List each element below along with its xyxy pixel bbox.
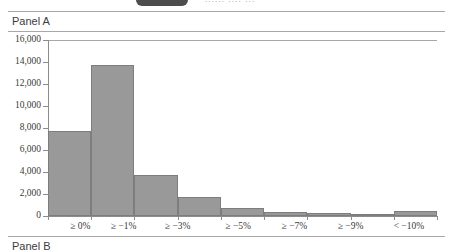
legend-strip: ...... .... ...	[0, 0, 453, 9]
histogram-bar	[394, 211, 437, 216]
histogram-bar	[221, 208, 264, 216]
y-axis-tick	[43, 150, 49, 151]
x-axis-tick	[264, 216, 265, 220]
x-axis-tick	[351, 216, 352, 220]
x-axis-tick-label: ≥ −5%	[225, 221, 251, 231]
x-axis-tick	[437, 216, 438, 220]
x-axis-tick-label: ≥ 0%	[70, 221, 90, 231]
y-axis-tick-label: 4,000	[0, 166, 41, 176]
y-axis-tick-label: 8,000	[0, 122, 41, 132]
panel-b-caption: Panel B	[12, 240, 51, 250]
x-axis-tick-label: ≥ −9%	[338, 221, 364, 231]
x-axis-tick-label: ≥ −3%	[165, 221, 191, 231]
histogram-bar	[134, 175, 177, 216]
divider-above-panel-b	[8, 236, 445, 237]
histogram-bar	[91, 65, 134, 216]
y-axis-tick	[43, 128, 49, 129]
x-axis-tick	[91, 216, 92, 220]
histogram-chart: 02,0004,0006,0008,00010,00012,00014,0001…	[0, 34, 453, 234]
y-axis-tick-label: 14,000	[0, 56, 41, 66]
y-axis-tick-label: 12,000	[0, 78, 41, 88]
x-axis-tick-label: ≥ −1%	[111, 221, 137, 231]
x-axis-tick	[221, 216, 222, 220]
x-axis-tick-label: ≥ −7%	[282, 221, 308, 231]
plot-area	[48, 40, 437, 216]
x-axis-line	[48, 216, 437, 217]
x-axis-tick	[48, 216, 49, 220]
divider-under-panel-a	[8, 31, 445, 32]
y-axis-tick-label: 6,000	[0, 144, 41, 154]
y-axis-tick	[43, 106, 49, 107]
y-axis-tick	[43, 172, 49, 173]
x-axis-tick	[394, 216, 395, 220]
y-axis-tick-label: 0	[0, 210, 41, 220]
x-axis-tick	[178, 216, 179, 220]
x-axis-tick-label: < −10%	[394, 221, 425, 231]
y-axis-tick	[43, 62, 49, 63]
y-axis-tick	[43, 40, 49, 41]
histogram-bar	[307, 213, 350, 216]
y-axis-tick	[43, 84, 49, 85]
histogram-bar	[178, 197, 221, 216]
y-axis-tick-label: 2,000	[0, 188, 41, 198]
histogram-bar	[351, 214, 394, 216]
y-axis-tick-label: 16,000	[0, 34, 41, 44]
x-axis-tick	[134, 216, 135, 220]
x-axis-tick	[307, 216, 308, 220]
legend-swatch	[136, 0, 188, 6]
y-axis-tick-label: 10,000	[0, 100, 41, 110]
divider-top	[8, 11, 445, 12]
histogram-bar	[48, 131, 91, 216]
histogram-bar	[264, 212, 307, 216]
legend-label: ...... .... ...	[205, 0, 255, 4]
panel-a-caption: Panel A	[12, 15, 50, 27]
y-axis-tick	[43, 194, 49, 195]
